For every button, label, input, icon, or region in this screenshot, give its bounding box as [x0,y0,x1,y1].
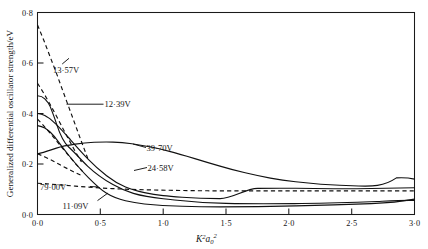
curve-11-09V [38,126,415,207]
y-tick-label: 0·2 [22,160,33,169]
x-axis-title: K2a02 [195,232,218,245]
curve-label-39-70V: 39·70V [147,143,174,153]
leader-11-09V [98,193,109,201]
x-tick-label: 1·0 [158,219,169,228]
svg-text:K2a02: K2a02 [195,232,218,245]
x-axis-ticks [38,209,415,215]
x-tick-label: 2·0 [283,219,294,228]
y-tick-label: 0·4 [22,110,34,119]
y-axis-title-text: Generalized differential oscillator stre… [5,29,15,197]
curve-label-11-09V: 11·09V [63,201,90,211]
x-tick-label: 3·0 [409,219,420,228]
x-tick-label: 0·0 [32,219,43,228]
curve-label-79-00V: 79·00V [40,182,67,192]
x-tick-labels: 0·0 0·5 1·0 1·5 2·0 2·5 3·0 [32,219,420,228]
x-tick-label: 2·5 [346,219,357,228]
chart-canvas: 0·8 0·6 0·4 0·2 0·0 0·0 0·5 1·0 1·5 2·0 … [0,0,428,249]
leader-24-58V [134,168,147,171]
x-axis-title-a-exp: 2 [214,232,218,239]
leader-13-57V [62,58,69,64]
x-axis-title-a-sub: 0 [210,238,214,245]
curve-label-12-39V: 12·39V [105,99,132,109]
y-tick-label: 0·6 [22,59,33,68]
curve-label-13-57V: 13·57V [53,65,80,75]
curve-label-24-58V: 24·58V [148,163,175,173]
y-tick-labels: 0·8 0·6 0·4 0·2 0·0 [22,9,34,220]
x-tick-label: 1·5 [220,219,231,228]
curve-39-70V [38,142,415,186]
figure-container: 0·8 0·6 0·4 0·2 0·0 0·0 0·5 1·0 1·5 2·0 … [0,0,428,249]
plot-frame [38,13,415,215]
curve-12-39V [38,96,415,204]
y-tick-label: 0·8 [22,9,33,18]
y-axis-title: Generalized differential oscillator stre… [5,29,15,197]
x-tick-label: 0·5 [95,219,106,228]
